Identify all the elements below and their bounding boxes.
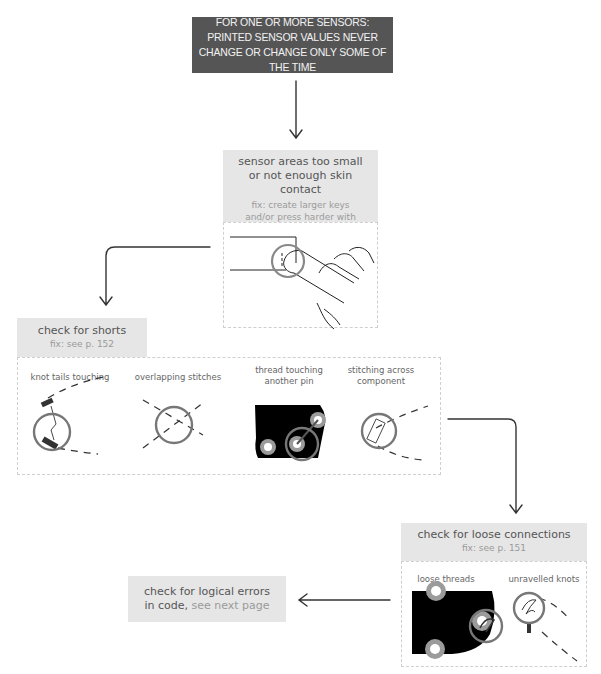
- knot-tails-icon: [34, 377, 104, 454]
- step1-header: sensor areas too small or not enough ski…: [223, 150, 378, 222]
- loose-fix: fix: see p. 151: [401, 542, 587, 554]
- loose-header: check for loose connections fix: see p. …: [401, 523, 587, 561]
- step1-title: sensor areas too small or not enough ski…: [223, 155, 378, 197]
- unravelled-knot-icon: [514, 593, 577, 661]
- shorts-title: check for shorts: [17, 324, 147, 338]
- thread-pin-icon: [255, 405, 326, 460]
- overlap-stitches-icon: [143, 400, 203, 448]
- finger-on-sensor-icon: [224, 223, 379, 329]
- component-stitch-icon: [362, 406, 428, 460]
- loose-title: check for loose connections: [401, 528, 587, 542]
- loose-threads-icon: [412, 581, 502, 659]
- shorts-panel: knot tails touching overlapping stitches…: [17, 357, 441, 475]
- logic-box: check for logical errors in code, see ne…: [128, 576, 286, 622]
- step1-illustration-panel: [223, 222, 378, 328]
- arrow-step1-to-shorts: [100, 247, 210, 305]
- see-next-page-link[interactable]: see next page: [191, 599, 269, 612]
- loose-panel: loose threads unravelled knots: [401, 561, 587, 667]
- shorts-fix: fix: see p. 152: [17, 338, 147, 350]
- arrow-header-to-step1: [290, 81, 302, 138]
- arrow-loose-to-logic: [299, 594, 390, 606]
- arrow-shorts-to-loose: [448, 419, 522, 513]
- shorts-header: check for shorts fix: see p. 152: [17, 318, 147, 358]
